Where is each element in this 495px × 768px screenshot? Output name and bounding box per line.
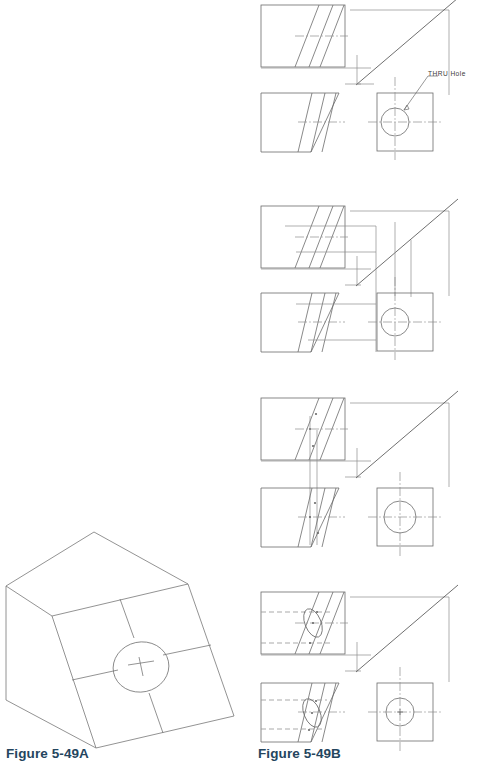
step2-top-view bbox=[261, 206, 376, 268]
technical-drawing-canvas bbox=[0, 0, 495, 768]
step-3-group bbox=[261, 391, 458, 556]
step-1-group bbox=[261, 0, 458, 160]
step3-projection-construction bbox=[261, 391, 458, 545]
step2-side-view bbox=[368, 277, 441, 360]
figure-caption-b: Figure 5-49B bbox=[258, 746, 341, 761]
iso-face-centerlines bbox=[72, 599, 211, 733]
step1-front-view bbox=[261, 93, 345, 152]
step3-front-view bbox=[261, 488, 345, 547]
iso-block-outline bbox=[6, 532, 234, 748]
step1-top-view bbox=[261, 5, 348, 67]
step2-projection-construction bbox=[261, 199, 458, 352]
step4-projection-construction bbox=[261, 585, 458, 682]
step4-top-view bbox=[261, 592, 348, 654]
step4-front-view bbox=[261, 683, 345, 742]
step-2-group bbox=[261, 199, 458, 360]
isometric-pictorial bbox=[6, 532, 234, 748]
step4-side-view bbox=[368, 667, 441, 751]
step3-side-view bbox=[368, 472, 441, 556]
step2-front-view bbox=[261, 293, 376, 352]
thru-hole-label: THRU Hole bbox=[428, 70, 466, 77]
step1-side-view bbox=[368, 77, 441, 160]
iso-through-hole bbox=[108, 637, 173, 698]
step3-top-view bbox=[261, 398, 348, 460]
figure-caption-a: Figure 5-49A bbox=[6, 746, 89, 761]
step-4-group bbox=[261, 585, 458, 751]
step1-projection-construction bbox=[261, 0, 458, 95]
figure-page: THRU Hole Figure 5-49A Figure 5-49B bbox=[0, 0, 495, 768]
